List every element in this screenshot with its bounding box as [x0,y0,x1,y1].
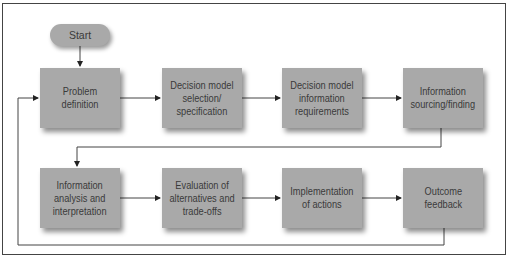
node-outcome-feedback: Outcome feedback [403,168,483,228]
node-information-sourcing: Information sourcing/finding [403,68,483,128]
node-label: Decision model information requirements [290,79,353,118]
node-decision-model-selection: Decision model selection/ specification [162,68,242,128]
node-label: Information analysis and interpretation [53,179,107,218]
node-label: Decision model selection/ specification [170,79,233,118]
node-label: Evaluation of alternatives and trade-off… [169,179,234,218]
node-evaluation-of-alternatives: Evaluation of alternatives and trade-off… [162,168,242,228]
node-problem-definition: Problem definition [40,68,120,128]
node-information-analysis: Information analysis and interpretation [40,168,120,228]
start-node: Start [50,24,110,46]
node-label: Problem definition [62,85,99,111]
node-implementation-of-actions: Implementation of actions [282,168,362,228]
node-label: Information sourcing/finding [411,85,476,111]
start-label: Start [69,29,91,41]
node-decision-model-information-requirements: Decision model information requirements [282,68,362,128]
node-label: Outcome feedback [424,185,462,211]
node-label: Implementation of actions [290,185,353,211]
